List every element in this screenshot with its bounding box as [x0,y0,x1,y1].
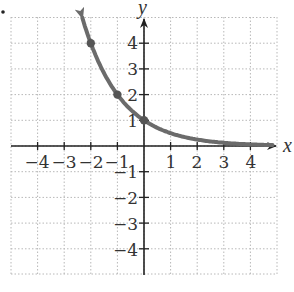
x-tick-label: 2 [192,152,203,172]
y-tick-label: 3 [127,59,138,79]
x-tick-label: −4 [24,152,49,172]
exponential-graph: y x −4 −3 −2 −1 1 2 3 4 4 3 2 1 −1 −2 −3… [0,0,294,292]
x-tick-label: −2 [78,152,103,172]
y-tick-label: 4 [127,33,138,53]
data-point [140,116,148,124]
exponential-curve [82,18,272,145]
stray-mark [1,10,5,14]
data-point [113,90,121,98]
data-point [87,39,95,47]
x-tick-label: 1 [166,152,177,172]
x-tick-label: 3 [219,152,230,172]
x-tick-label: 4 [246,152,257,172]
y-tick-label: 2 [127,85,138,105]
y-tick-label: −2 [113,188,138,208]
y-axis-label: y [136,0,147,19]
y-tick-label: −4 [113,240,138,260]
y-tick-label: −3 [113,214,138,234]
y-tick-label: −1 [113,162,138,182]
y-tick-label: 1 [127,111,138,131]
x-tick-label: −3 [51,152,76,172]
x-axis-label: x [282,134,292,156]
